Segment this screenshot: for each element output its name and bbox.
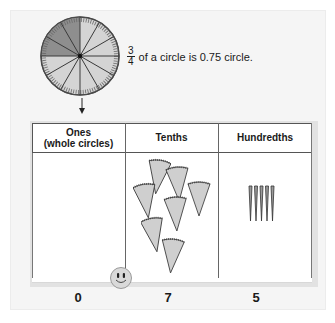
value-tenths: 7 <box>148 290 188 305</box>
fraction: 3 4 <box>127 46 135 67</box>
caption-text: of a circle is 0.75 circle. <box>139 51 253 63</box>
tenth-wedge-icon <box>186 180 212 218</box>
fraction-denominator: 4 <box>128 57 134 67</box>
header-ones-sublabel: (whole circles) <box>44 138 113 149</box>
table-left-border-top <box>32 123 33 153</box>
divider-tenths-hundredths <box>218 123 219 278</box>
value-ones: 0 <box>58 290 98 305</box>
table-top-border <box>32 123 312 124</box>
tenth-wedge-icon <box>133 182 159 220</box>
header-ones-label: Ones <box>44 127 113 138</box>
fraction-circle <box>39 15 121 97</box>
table-left-border <box>32 153 33 278</box>
header-hundredths: Hundredths <box>218 123 312 153</box>
header-ones: Ones (whole circles) <box>32 123 125 153</box>
down-arrow-icon <box>79 98 85 114</box>
header-tenths: Tenths <box>125 123 218 153</box>
circle-icon <box>39 15 121 97</box>
tenth-wedge-icon <box>159 237 185 277</box>
divider-ones-tenths <box>125 123 126 278</box>
hundredth-slivers-icon <box>247 185 275 223</box>
fraction-caption: 3 4 of a circle is 0.75 circle. <box>127 46 253 67</box>
smiley-decimal-point-icon <box>109 266 133 290</box>
value-hundredths: 5 <box>236 290 276 305</box>
table-bottom-band <box>32 282 312 283</box>
table-right-border <box>311 123 312 278</box>
